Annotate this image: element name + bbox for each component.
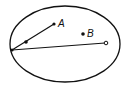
ellipse-boundary	[10, 6, 120, 82]
segment-to-a	[12, 24, 54, 50]
label-b: B	[87, 28, 94, 39]
segment-to-boundary	[12, 43, 105, 50]
point-left-edge	[10, 48, 13, 51]
point-b	[81, 32, 85, 36]
label-a: A	[57, 18, 65, 29]
point-open-end	[104, 41, 108, 45]
ellipse-diagram: A B	[0, 0, 131, 87]
point-mid	[24, 40, 28, 44]
point-a	[52, 22, 55, 25]
